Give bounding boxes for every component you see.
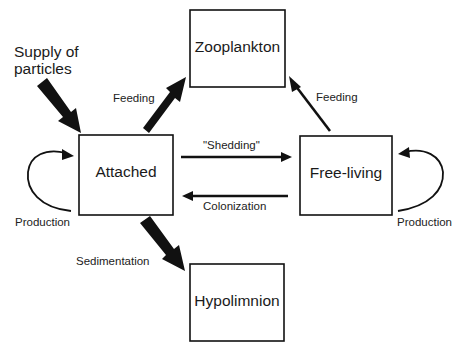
production-free-arrowhead-icon — [398, 147, 410, 158]
sedimentation-label: Sedimentation — [76, 255, 150, 267]
hypolimnion-label: Hypolimnion — [194, 292, 279, 309]
edge-production-attached: Production — [15, 149, 74, 228]
supply-arrow-icon — [37, 78, 81, 133]
edge-production-free: Production — [397, 147, 452, 228]
supply-label-line1: Supply of — [14, 43, 79, 60]
edge-sedimentation: Sedimentation — [76, 216, 185, 271]
free-living-label: Free-living — [310, 164, 382, 181]
zooplankton-label: Zooplankton — [195, 38, 280, 55]
edge-feeding-free: Feeding — [289, 76, 358, 131]
edge-shedding: "Shedding" — [181, 139, 292, 162]
supply-label-line2: particles — [14, 60, 72, 77]
colonization-label: Colonization — [203, 200, 266, 212]
node-zooplankton: Zooplankton — [190, 10, 285, 87]
feeding-attached-arrow-icon — [143, 77, 186, 133]
production-free-label: Production — [397, 216, 452, 228]
edge-colonization: Colonization — [182, 191, 288, 212]
production-attached-arrowhead-icon — [62, 149, 74, 160]
production-attached-curve — [28, 151, 71, 211]
supply-input: Supply of particles — [14, 43, 81, 133]
node-hypolimnion: Hypolimnion — [190, 264, 284, 341]
attached-label: Attached — [95, 163, 156, 180]
feeding-attached-label: Feeding — [113, 92, 155, 104]
colonization-arrowhead-icon — [182, 191, 193, 201]
particle-flux-diagram: Zooplankton Attached Free-living Hypolim… — [0, 0, 468, 353]
feeding-free-label: Feeding — [316, 91, 358, 103]
shedding-arrowhead-icon — [281, 152, 292, 162]
node-free-living: Free-living — [300, 136, 392, 215]
edge-feeding-attached: Feeding — [113, 77, 186, 133]
node-attached: Attached — [79, 135, 173, 215]
production-free-curve — [398, 151, 443, 211]
shedding-label: "Shedding" — [203, 139, 260, 151]
production-attached-label: Production — [15, 216, 70, 228]
